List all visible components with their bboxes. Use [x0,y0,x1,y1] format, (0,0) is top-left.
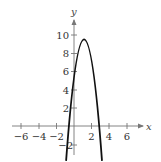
svg-text:−6: −6 [14,131,29,142]
svg-text:4: 4 [106,131,112,142]
svg-text:6: 6 [63,66,69,77]
y-axis-label: y [70,6,77,17]
svg-text:−4: −4 [32,131,47,142]
x-axis-label: x [146,121,152,132]
svg-text:2: 2 [63,103,69,114]
svg-text:10: 10 [56,30,69,41]
svg-text:4: 4 [63,85,69,96]
svg-text:−2: −2 [58,140,73,151]
svg-text:2: 2 [88,131,94,142]
svg-text:8: 8 [63,48,69,59]
svg-text:6: 6 [124,131,130,142]
chart: −6 −4 −2 2 4 6 10 8 6 4 2 −2 x y [0,0,161,162]
